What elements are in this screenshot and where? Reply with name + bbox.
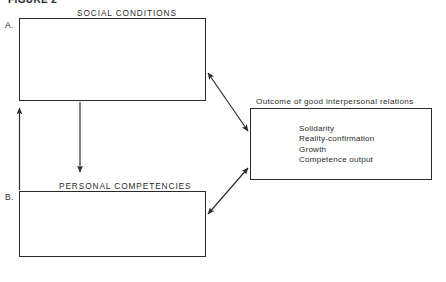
outcome-item-list: Solidarity Reality-confirmation Growth C… <box>299 124 375 166</box>
arrow-competencies-to-outcome <box>208 168 248 214</box>
arrow-social-to-outcome <box>208 73 248 131</box>
outcome-item: Growth <box>299 145 375 155</box>
personal-competencies-heading: PERSONAL COMPETENCIES <box>59 181 191 191</box>
outcome-heading: Outcome of good interpersonal relations <box>256 97 414 106</box>
figure-caption: FIGURE 2 <box>8 0 57 5</box>
personal-competencies-box <box>19 191 206 257</box>
figure-diagram: FIGURE 2 Outcome --> Outcome --> B (down… <box>0 0 446 282</box>
section-letter-a: A. <box>5 20 14 30</box>
outcome-item: Solidarity <box>299 124 375 134</box>
social-conditions-heading: SOCIAL CONDITIONS <box>77 8 177 18</box>
section-letter-b: B. <box>5 192 14 202</box>
social-conditions-box <box>19 18 206 101</box>
outcome-item: Reality-confirmation <box>299 134 375 144</box>
outcome-item: Competence output <box>299 155 375 165</box>
